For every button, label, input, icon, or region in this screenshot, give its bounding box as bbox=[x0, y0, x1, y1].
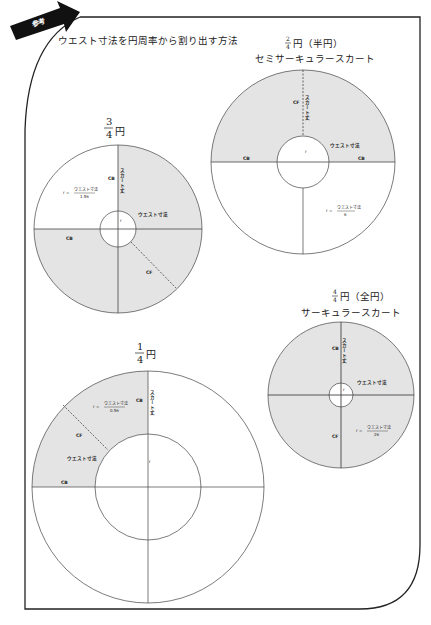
fraction-denominator: 4 bbox=[137, 354, 143, 365]
formula-lhs: r = bbox=[356, 428, 362, 433]
label-cb-top: CB bbox=[108, 176, 115, 181]
label-cf: CF bbox=[76, 433, 83, 438]
formula-lhs: r = bbox=[63, 190, 69, 195]
label-waist: ウエスト寸法 bbox=[330, 142, 360, 149]
diagram-title: 円（半円） bbox=[293, 38, 343, 49]
fraction-denominator: 4 bbox=[333, 296, 337, 303]
label-cb-right: CB bbox=[358, 156, 365, 161]
formula-lhs: r = bbox=[93, 404, 99, 409]
label-cb-top: CB bbox=[136, 398, 143, 403]
label-skirt-length: スカート丈 bbox=[149, 390, 154, 416]
diagram-subtitle: セミサーキュラースカート bbox=[255, 53, 375, 64]
formula-denominator: 1.5π bbox=[80, 194, 89, 199]
label-cb: CB bbox=[332, 346, 339, 351]
formula-numerator: ウエスト寸法 bbox=[337, 204, 361, 210]
label-waist: ウエスト寸法 bbox=[138, 211, 168, 218]
diagram-half-circle: 2 4 円（半円） セミサーキュラースカート CF CB CB スカート丈 ウエ… bbox=[211, 35, 395, 254]
diagram-subtitle: サーキュラースカート bbox=[301, 307, 401, 318]
label-cb-left: CB bbox=[243, 156, 250, 161]
label-skirt-length: スカート丈 bbox=[341, 338, 346, 364]
fraction-numerator: 3 bbox=[106, 116, 112, 127]
label-skirt-length: スカート丈 bbox=[304, 95, 309, 121]
label-radius: r bbox=[149, 459, 151, 464]
label-cf: CF bbox=[293, 100, 300, 105]
fraction-denominator: 4 bbox=[106, 129, 112, 140]
formula-numerator: ウエスト寸法 bbox=[104, 400, 128, 406]
formula-numerator: ウエスト寸法 bbox=[74, 186, 98, 192]
formula-lhs: r = bbox=[326, 208, 332, 213]
label-cf: CF bbox=[146, 270, 153, 275]
fraction-numerator: 2 bbox=[286, 35, 290, 42]
label-cf: CF bbox=[332, 434, 339, 439]
label-cb-left: CB bbox=[66, 236, 73, 241]
diagram-title: 円（全円） bbox=[340, 291, 390, 302]
label-skirt-length: スカート丈 bbox=[119, 168, 124, 194]
formula-denominator: π bbox=[344, 212, 347, 217]
label-waist: ウエスト寸法 bbox=[67, 455, 97, 462]
fraction-numerator: 1 bbox=[137, 341, 143, 352]
formula-denominator: 2π bbox=[374, 432, 380, 437]
diagram-canvas: 参考 ウエスト寸法を円周率から割り出す方法 2 4 円（半円） セミサーキュラー… bbox=[0, 0, 431, 625]
label-waist: ウエスト寸法 bbox=[357, 379, 387, 386]
page-title: ウエスト寸法を円周率から割り出す方法 bbox=[58, 35, 238, 46]
fraction-denominator: 4 bbox=[286, 43, 290, 50]
diagram-title: 円 bbox=[115, 126, 125, 137]
label-cb-left: CB bbox=[61, 480, 68, 485]
diagram-quarter-circle: 1 4 円 CB CB CF スカート丈 ウエスト寸法 r r = ウエスト寸法… bbox=[32, 341, 264, 603]
formula-numerator: ウエスト寸法 bbox=[367, 424, 391, 430]
formula-denominator: 0.5π bbox=[110, 408, 119, 413]
diagram-three-quarter-circle: 3 4 円 CB CB CF スカート丈 ウエスト寸法 r r = ウエスト寸法… bbox=[34, 116, 202, 313]
diagram-full-circle: 4 4 円（全円） サーキュラースカート CB CF スカート丈 ウエスト寸法 … bbox=[268, 288, 414, 468]
fraction-numerator: 4 bbox=[333, 288, 337, 295]
diagram-title: 円 bbox=[146, 349, 156, 360]
